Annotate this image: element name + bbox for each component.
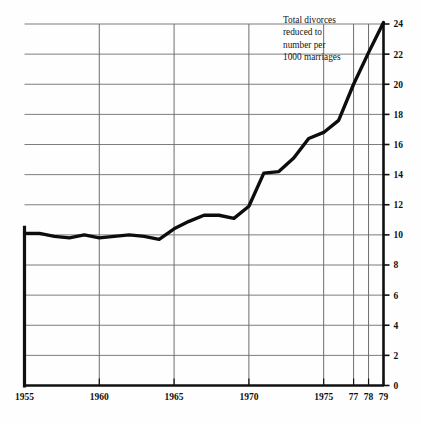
x-tick-label: 1970 — [239, 392, 258, 402]
x-axis-tick-labels: 19551960196519701975777879 — [15, 392, 389, 402]
axis-lines — [23, 24, 384, 388]
x-tick-label: 1955 — [15, 392, 34, 402]
y-tick-label: 22 — [394, 50, 404, 60]
y-tick-label: 8 — [394, 260, 399, 270]
y-tick-label: 18 — [394, 110, 404, 120]
annotation-line: reduced to — [283, 27, 322, 37]
annotation-line: Total divorces — [283, 15, 336, 25]
y-tick-label: 2 — [394, 351, 399, 361]
x-tick-label: 78 — [364, 392, 374, 402]
grid-horizontal — [25, 24, 384, 355]
annotation-line: number per — [283, 40, 326, 50]
y-tick-label: 24 — [394, 19, 404, 29]
divorce-rate-line-chart: 19551960196519701975777879 0246810121416… — [0, 0, 421, 424]
y-tick-label: 20 — [394, 80, 404, 90]
x-tick-label: 1960 — [90, 392, 109, 402]
y-tick-label: 6 — [394, 291, 399, 301]
y-tick-label: 0 — [394, 381, 399, 391]
y-tick-label: 12 — [394, 200, 404, 210]
y-tick-label: 16 — [394, 140, 404, 150]
y-tick-label: 14 — [394, 170, 404, 180]
x-tick-label: 77 — [349, 392, 359, 402]
y-tick-label: 4 — [394, 321, 399, 331]
x-tick-label: 1965 — [165, 392, 184, 402]
y-tick-label: 10 — [394, 230, 404, 240]
x-tick-label: 79 — [379, 392, 389, 402]
chart-annotation: Total divorcesreduced tonumber per1000 m… — [283, 15, 341, 62]
y-axis-tick-labels: 024681012141618202224 — [394, 19, 404, 391]
chart-page: 19551960196519701975777879 0246810121416… — [0, 0, 421, 424]
x-tick-label: 1975 — [314, 392, 333, 402]
annotation-line: 1000 marriages — [283, 52, 341, 62]
